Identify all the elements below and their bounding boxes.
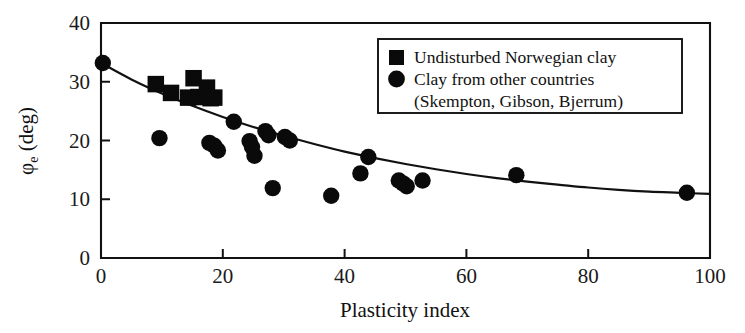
data-point-circle <box>151 130 167 146</box>
y-tick-label: 0 <box>80 246 91 270</box>
legend-circle-marker <box>388 71 405 88</box>
y-axis-title-text: φe (deg) <box>14 107 41 175</box>
legend-square-marker <box>389 50 404 65</box>
x-axis-title-text: Plasticity index <box>340 298 471 322</box>
plot-canvas: 020406080100 010203040 Plasticity index … <box>0 0 745 333</box>
y-tick-label: 10 <box>69 187 90 211</box>
legend: Undisturbed Norwegian clay Clay from oth… <box>378 39 682 113</box>
x-tick-label: 40 <box>334 264 355 288</box>
data-point-circle <box>226 114 242 130</box>
data-point-circle <box>282 132 298 148</box>
legend-label-other-countries: Clay from other countries <box>414 69 594 89</box>
x-axis-ticks <box>101 249 710 258</box>
y-tick-label: 40 <box>69 11 90 35</box>
y-axis-title: φe (deg) <box>14 107 41 175</box>
data-point-circle <box>265 180 281 196</box>
x-tick-label: 60 <box>456 264 477 288</box>
data-point-circle <box>352 165 368 181</box>
y-tick-label: 20 <box>69 129 90 153</box>
x-tick-label: 20 <box>212 264 233 288</box>
x-tick-label: 100 <box>694 264 726 288</box>
x-axis-title: Plasticity index <box>340 298 471 322</box>
chart-figure: 020406080100 010203040 Plasticity index … <box>0 0 745 333</box>
series-undisturbed-norwegian-clay <box>148 70 223 106</box>
legend-label-norwegian-clay: Undisturbed Norwegian clay <box>414 47 616 67</box>
data-point-circle <box>323 188 339 204</box>
x-tick-label: 0 <box>96 264 107 288</box>
data-point-circle <box>399 178 415 194</box>
data-point-circle <box>679 185 695 201</box>
y-tick-label: 30 <box>69 70 90 94</box>
data-point-square <box>163 85 180 102</box>
legend-label-sources: (Skempton, Gibson, Bjerrum) <box>414 91 623 111</box>
data-point-circle <box>260 127 276 143</box>
data-point-circle <box>246 148 262 164</box>
x-tick-label: 80 <box>578 264 599 288</box>
data-point-circle <box>360 149 376 165</box>
y-axis-title-unit: (deg) <box>14 107 38 157</box>
y-axis-tick-labels: 010203040 <box>69 11 90 270</box>
data-point-square <box>148 76 165 93</box>
data-point-circle <box>210 142 226 158</box>
x-axis-tick-labels: 020406080100 <box>96 264 726 288</box>
data-point-square <box>206 89 223 106</box>
data-point-circle <box>508 167 524 183</box>
data-point-circle <box>95 55 111 71</box>
data-point-circle <box>414 172 430 188</box>
y-axis-title-symbol: φ <box>14 163 38 175</box>
